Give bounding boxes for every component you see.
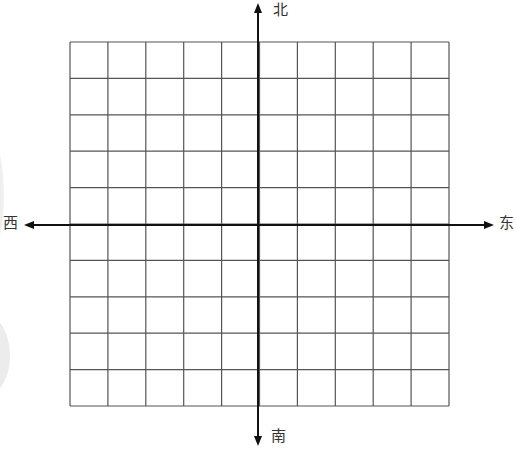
west-arrow-icon	[24, 221, 34, 229]
south-label: 南	[271, 429, 286, 444]
south-arrow-icon	[254, 436, 262, 446]
compass-grid-diagram: 北 南 西 东	[0, 0, 516, 449]
east-arrow-icon	[484, 221, 494, 229]
west-label: 西	[3, 216, 18, 231]
north-label: 北	[273, 3, 288, 18]
east-label: 东	[499, 216, 514, 231]
grid-svg	[0, 0, 516, 449]
north-arrow-icon	[254, 3, 262, 13]
axes	[24, 3, 494, 446]
